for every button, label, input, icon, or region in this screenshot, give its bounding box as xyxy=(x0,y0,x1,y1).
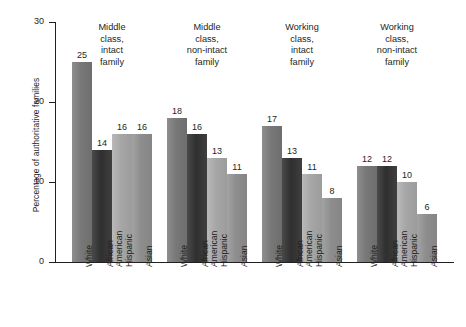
x-tick-label: AfricanAmerican xyxy=(106,231,125,267)
y-tick-mark xyxy=(49,22,55,23)
x-tick-label: Hispanic xyxy=(125,234,135,267)
bar-value-label: 13 xyxy=(277,146,307,156)
x-tick-label: White xyxy=(180,245,190,267)
bar-value-label: 16 xyxy=(127,122,157,132)
x-tick-label: Hispanic xyxy=(220,234,230,267)
x-tick-label: White xyxy=(370,245,380,267)
y-tick-mark xyxy=(49,262,55,263)
x-tick-label: Hispanic xyxy=(315,234,325,267)
bar-chart: Percentage of authoritative families 010… xyxy=(0,0,466,327)
y-tick-label: 20 xyxy=(14,96,44,106)
bar-value-label: 11 xyxy=(222,162,252,172)
y-tick-label: 0 xyxy=(14,256,44,266)
x-tick-label: Asian xyxy=(240,246,250,268)
y-tick-mark xyxy=(49,182,55,183)
y-tick-label: 10 xyxy=(14,176,44,186)
y-axis-title: Percentage of authoritative families xyxy=(31,45,41,245)
bar-value-label: 11 xyxy=(297,162,327,172)
bar-value-label: 18 xyxy=(162,106,192,116)
x-tick-label: Asian xyxy=(145,246,155,268)
bar xyxy=(167,118,187,262)
bar-value-label: 12 xyxy=(372,154,402,164)
plot-area: 251416161816131117131181212106 xyxy=(56,22,454,262)
bar xyxy=(72,62,92,262)
x-tick-label: White xyxy=(85,245,95,267)
x-tick-label: White xyxy=(275,245,285,267)
x-tick-label: AfricanAmerican xyxy=(296,231,315,267)
x-tick-label: AfricanAmerican xyxy=(391,231,410,267)
x-tick-label: Asian xyxy=(430,246,440,268)
bar-value-label: 17 xyxy=(257,114,287,124)
bar-value-label: 25 xyxy=(67,50,97,60)
y-tick-label: 30 xyxy=(14,16,44,26)
y-tick-mark xyxy=(49,102,55,103)
bar-value-label: 16 xyxy=(182,122,212,132)
bar-value-label: 6 xyxy=(412,202,442,212)
bar-value-label: 8 xyxy=(317,186,347,196)
x-tick-label: Hispanic xyxy=(410,234,420,267)
bar xyxy=(132,134,152,262)
bar-value-label: 13 xyxy=(202,146,232,156)
bar-value-label: 10 xyxy=(392,170,422,180)
x-tick-label: AfricanAmerican xyxy=(201,231,220,267)
x-tick-label: Asian xyxy=(335,246,345,268)
